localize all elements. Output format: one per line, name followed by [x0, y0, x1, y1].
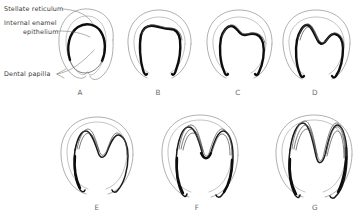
panel-f-layered-differentiation-stage: F [162, 115, 238, 212]
panel-d-two-cusp-stage: D [283, 10, 350, 97]
panel-b-early-bell-stage: B [128, 10, 191, 97]
panel-c-asymmetric-folding-stage: C [207, 10, 272, 97]
label-internal-enamel-epithelium-line1: Internal enamel [4, 19, 57, 27]
panel-g-lamina-3 [296, 129, 317, 156]
panel-f-thickened-right-limb [224, 160, 232, 192]
panel-letter-g: G [312, 203, 318, 212]
panel-f-stellate-reticulum-right [209, 154, 232, 192]
panel-e-internal-enamel-epithelium [75, 131, 128, 192]
panel-g-thickened-left-limb [290, 159, 296, 194]
panel-a-internal-enamel-epithelium [68, 24, 105, 61]
panel-letter-b: B [155, 88, 160, 97]
panel-letter-c: C [235, 88, 240, 97]
panel-f-lamina-2 [181, 129, 203, 151]
panel-f-lamina-3 [183, 133, 203, 152]
panel-e-thickened-left-limb [75, 156, 80, 188]
figure-root: A Stellate reticulum Internal enamel epi… [0, 0, 356, 221]
panel-f-lamina-1 [179, 125, 232, 156]
label-dental-papilla: Dental papilla [4, 70, 51, 78]
panel-e-cusp-deepening-stage: E [61, 117, 133, 212]
label-internal-enamel-epithelium-line2: epithelium [23, 28, 59, 36]
leader-dental-papilla [57, 50, 94, 74]
leader-dental-papilla-arrow [57, 69, 66, 78]
panel-b-internal-enamel-epithelium-left [140, 35, 147, 75]
panel-g-crown-completion-stage: G [276, 115, 352, 212]
panel-letter-d: D [312, 88, 318, 97]
panel-letter-a: A [77, 88, 82, 97]
panel-g-internal-enamel-epithelium [290, 123, 347, 198]
panel-d-internal-enamel-epithelium-left [296, 40, 304, 77]
label-stellate-reticulum: Stellate reticulum [4, 5, 63, 13]
panel-c-internal-enamel-epithelium-left [220, 38, 228, 75]
panel-e-stellate-reticulum-right [106, 154, 127, 189]
annotation-group: Stellate reticulum Internal enamel epith… [4, 5, 94, 78]
panel-a-cap-stage: A [59, 9, 113, 97]
panel-letter-e: E [95, 203, 100, 212]
panel-letter-f: F [195, 203, 199, 212]
panel-b-outer-contour [128, 10, 191, 78]
panel-e-epithelium-outline-1 [77, 129, 127, 155]
panel-f-internal-enamel-epithelium [177, 127, 233, 197]
leader-internal-enamel-epithelium [58, 31, 90, 37]
panel-e-outer-contour-right [108, 155, 133, 194]
panel-f-thickened-left-limb [177, 158, 183, 193]
panel-b-internal-enamel-epithelium [141, 26, 180, 75]
tooth-development-diagram: A Stellate reticulum Internal enamel epi… [0, 0, 356, 221]
